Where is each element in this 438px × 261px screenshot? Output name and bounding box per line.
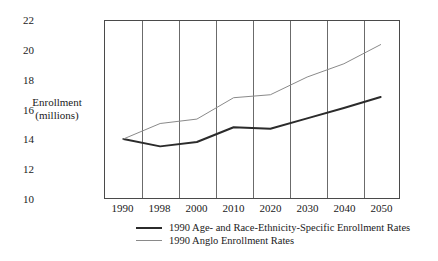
y-axis-tick-label: 20 [0,45,34,56]
y-axis-tick-label: 10 [0,194,34,205]
series-line [123,45,380,139]
y-axis-tick-label: 12 [0,164,34,175]
enrollment-projection-chart: Enrollment (millions) 22201816141210 199… [0,0,438,261]
legend-label: 1990 Age- and Race-Ethnicity-Specific En… [169,222,410,233]
legend-label: 1990 Anglo Enrollment Rates [169,235,294,246]
y-axis-tick-label: 16 [0,105,34,116]
plot-area [104,20,400,199]
legend-item-anglo-enrollment-rates: 1990 Anglo Enrollment Rates [136,235,426,246]
x-axis-tick-labels: 19901998200020102020203020402050 [104,202,400,216]
y-axis-tick-label: 14 [0,134,34,145]
y-axis-tick-label: 18 [0,75,34,86]
series-lines [105,21,399,198]
legend-item-age-race-ethnicity-specific: 1990 Age- and Race-Ethnicity-Specific En… [136,222,426,233]
y-axis-tick-label: 22 [0,15,34,26]
series-line [123,97,380,146]
x-axis-tick-label: 2050 [352,202,412,214]
legend-swatch-dark-line-icon [136,227,162,229]
legend-swatch-gray-line-icon [136,240,162,241]
chart-legend: 1990 Age- and Race-Ethnicity-Specific En… [136,222,426,248]
